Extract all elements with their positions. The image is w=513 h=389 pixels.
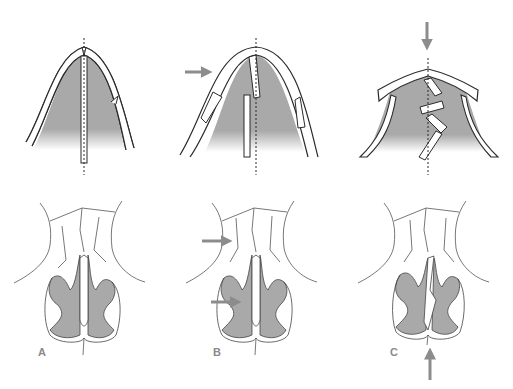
panel-label-c: C (390, 346, 398, 358)
anatomy-a (14, 201, 145, 355)
figure-canvas: A B C (0, 0, 513, 389)
panel-label-a: A (38, 346, 46, 358)
schematic-c (360, 58, 498, 175)
schematic-a (26, 38, 134, 175)
schematic-b (180, 38, 318, 175)
anatomy-b (186, 201, 317, 355)
anatomy-c (358, 201, 489, 345)
panel-label-b: B (213, 346, 221, 358)
